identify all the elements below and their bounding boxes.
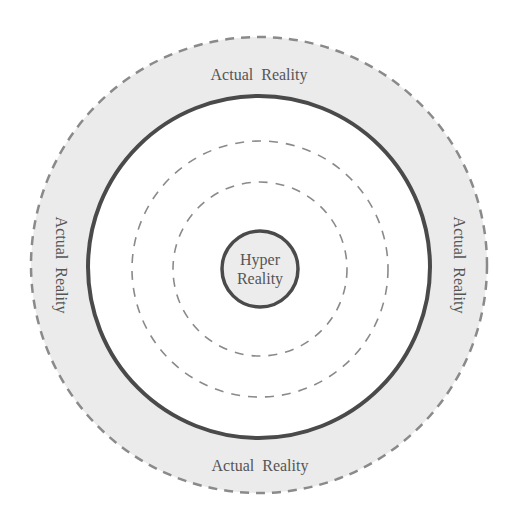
outer-label-top: Actual Reality [211, 66, 308, 84]
outer-label-right: Actual Reality [450, 217, 468, 314]
hyper-reality-circle [222, 231, 298, 307]
outer-label-bottom: Actual Reality [212, 457, 309, 475]
hyper-reality-diagram: Hyper Reality Actual Reality Actual Real… [0, 0, 512, 527]
center-label-line1: Hyper [240, 251, 281, 269]
outer-label-left: Actual Reality [52, 217, 70, 314]
center-label-line2: Reality [237, 270, 283, 288]
